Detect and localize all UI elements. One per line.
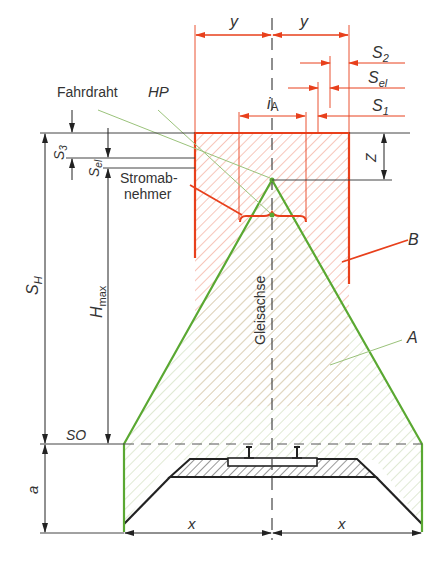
label-a-dim: a	[24, 486, 41, 494]
label-sel: Sel	[368, 69, 388, 89]
label-b: B	[408, 231, 419, 248]
label-sh: SH	[24, 276, 44, 295]
label-hmax: Hmax	[88, 285, 108, 318]
label-s3: S3	[51, 145, 69, 160]
label-gleisachse: Gleisachse	[252, 276, 268, 345]
label-ia: iA	[267, 95, 279, 114]
label-stromabnehmer-2: nehmer	[124, 186, 172, 202]
label-stromabnehmer-1: Stromab-	[120, 170, 178, 186]
clearance-diagram: y y S2 Sel S1 iA Fahrdraht HP S3 Sel Str…	[0, 0, 445, 571]
label-hp: HP	[148, 83, 169, 100]
label-so: SO	[66, 427, 86, 443]
label-x-left: x	[187, 515, 196, 532]
label-y-left: y	[229, 13, 239, 30]
label-z: Z	[363, 153, 379, 163]
label-y-right: y	[299, 13, 309, 30]
label-x-right: x	[337, 515, 346, 532]
label-a-region: A	[406, 329, 418, 346]
label-fahrdraht: Fahrdraht	[57, 84, 118, 100]
label-sel-left: Sel	[86, 159, 104, 177]
label-s1: S1	[372, 97, 389, 117]
label-s2: S2	[372, 44, 389, 64]
